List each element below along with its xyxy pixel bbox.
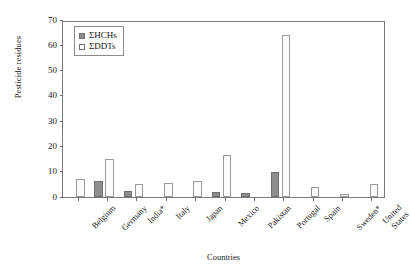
- bar-hchs: [94, 181, 103, 197]
- x-axis-tick: [166, 197, 167, 201]
- bar-ddts: [193, 181, 202, 197]
- x-axis-tick: [283, 197, 284, 201]
- y-tick-label: 70: [48, 14, 57, 26]
- y-tick-mark: [60, 70, 64, 71]
- y-tick-mark: [60, 20, 64, 21]
- x-axis-tick: [254, 197, 255, 201]
- bar-hchs: [212, 192, 221, 197]
- bar-group: [210, 22, 239, 197]
- legend-swatch-ddts-icon: [79, 44, 85, 50]
- bar-ddts: [223, 155, 232, 197]
- y-tick-label: 0: [53, 191, 58, 203]
- bar-group: [180, 22, 209, 197]
- x-axis-tick: [195, 197, 196, 201]
- x-axis-tick: [313, 197, 314, 201]
- y-tick-label: 10: [48, 165, 57, 177]
- x-axis-label: Sweden*: [354, 203, 383, 232]
- y-tick-mark: [60, 197, 64, 198]
- y-tick-label: 20: [48, 140, 57, 152]
- bar-group: [151, 22, 180, 197]
- bar-ddts: [282, 35, 291, 197]
- x-axis-tick: [78, 197, 79, 201]
- bar-group: [122, 22, 151, 197]
- bar-group: [298, 22, 327, 197]
- x-axis-tick: [136, 197, 137, 201]
- x-axis-label: India*: [146, 203, 168, 225]
- bar-ddts: [311, 187, 320, 197]
- y-tick-mark: [60, 95, 64, 96]
- legend-item-ddts: ΣDDTs: [79, 41, 117, 52]
- x-axis-tick: [342, 197, 343, 201]
- x-axis-label: Belgium: [89, 203, 117, 231]
- x-axis-label: Japan: [204, 203, 225, 224]
- bar-ddts: [164, 183, 173, 197]
- x-axis-label: Italy: [173, 203, 191, 221]
- y-tick-label: 30: [48, 115, 57, 127]
- bar-group: [239, 22, 268, 197]
- x-axis-tick: [225, 197, 226, 201]
- y-tick-label: 50: [48, 64, 57, 76]
- x-axis-label: Pakistan: [265, 203, 292, 230]
- bar-ddts: [76, 179, 85, 197]
- bar-ddts: [370, 184, 379, 197]
- bar-hchs: [241, 193, 250, 197]
- y-tick-mark: [60, 146, 64, 147]
- x-axis-label: Portugal: [295, 203, 322, 230]
- bar-ddts: [105, 159, 114, 197]
- chart-legend: ΣHCHs ΣDDTs: [74, 26, 124, 56]
- y-tick-mark: [60, 121, 64, 122]
- legend-swatch-hchs-icon: [79, 33, 85, 39]
- y-axis-title: Pesticide residues: [13, 0, 23, 137]
- x-axis-label: Mexico: [235, 203, 260, 228]
- legend-label-hchs: ΣHCHs: [89, 30, 117, 41]
- x-axis-tick: [371, 197, 372, 201]
- x-axis-title: Countries: [62, 252, 385, 262]
- bar-group: [327, 22, 356, 197]
- bar-hchs: [271, 172, 280, 197]
- bar-hchs: [124, 191, 133, 197]
- y-tick-label: 60: [48, 39, 57, 51]
- x-axis-label: UnitedStates: [381, 203, 411, 233]
- pesticide-residues-bar-chart: Pesticide residues 010203040506070 Count…: [0, 0, 411, 274]
- legend-label-ddts: ΣDDTs: [89, 41, 116, 52]
- bar-group: [269, 22, 298, 197]
- bar-ddts: [135, 184, 144, 197]
- x-axis-label: Spain: [321, 203, 342, 224]
- y-tick-mark: [60, 45, 64, 46]
- y-tick-mark: [60, 171, 64, 172]
- bar-group: [357, 22, 386, 197]
- y-tick-label: 40: [48, 89, 57, 101]
- x-axis-tick: [107, 197, 108, 201]
- legend-item-hchs: ΣHCHs: [79, 30, 117, 41]
